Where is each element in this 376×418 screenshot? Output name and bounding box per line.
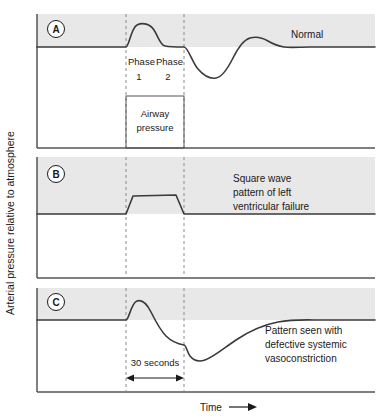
phase-1-number: 1 — [136, 71, 141, 82]
airway-pressure-label-line1: Airway — [141, 108, 170, 119]
right-arrow-icon — [229, 403, 257, 411]
x-axis-label-group: Time — [200, 402, 257, 413]
phase-2-number: 2 — [165, 71, 170, 82]
panel-c-marker-letter: C — [52, 297, 59, 308]
panel-c-shading — [37, 288, 375, 320]
panel-b-marker: B — [48, 166, 65, 183]
panel-b-caption-line3: ventricular failure — [233, 201, 310, 212]
phase-2-label: Phase — [156, 56, 183, 67]
panel-b-marker-letter: B — [52, 169, 59, 180]
valsalva-waveform-figure: Arterial pressure relative to atmosphere… — [0, 0, 376, 418]
airway-pressure-label-line2: pressure — [137, 122, 174, 133]
panel-c-marker: C — [48, 294, 65, 311]
duration-marker-label: 30 seconds — [131, 357, 180, 368]
y-axis-label: Arterial pressure relative to atmosphere — [4, 131, 16, 315]
panel-a: A Normal Phase 1 Phase 2 Airway pressure — [37, 14, 375, 148]
panel-c-caption-line2: defective systemic — [265, 339, 347, 350]
phase-1-label: Phase — [128, 56, 155, 67]
panel-b-caption-line1: Square wave — [233, 173, 292, 184]
panel-c-caption-line1: Pattern seen with — [265, 325, 342, 336]
panel-a-shading — [37, 14, 375, 47]
panel-b: B Square wave pattern of left ventricula… — [37, 157, 375, 278]
panel-c: C Pattern seen with defective systemic v… — [37, 288, 375, 392]
duration-marker-arrow — [126, 374, 184, 381]
panel-b-caption-line2: pattern of left — [233, 187, 292, 198]
panel-b-shading — [37, 157, 375, 214]
panel-a-marker: A — [48, 21, 65, 38]
panel-a-caption-normal: Normal — [291, 29, 323, 40]
panel-c-caption-line3: vasoconstriction — [265, 353, 337, 364]
panel-a-marker-letter: A — [52, 24, 59, 35]
x-axis-label: Time — [200, 402, 222, 413]
